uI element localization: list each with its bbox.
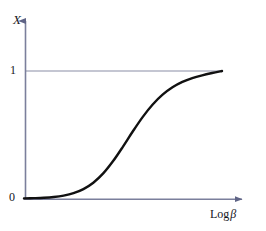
y-tick-label-one: 1 [10,64,16,76]
plot-canvas [0,0,266,231]
y-tick-label-zero: 0 [9,191,15,203]
sigmoid-curve [24,71,222,198]
beta-symbol: β [229,207,236,221]
x-axis-title-text: Log [210,207,229,221]
y-axis-title: X [13,13,21,26]
x-axis-title: Logβ [210,208,236,220]
figure-container: X Logβ 1 0 [0,0,266,231]
